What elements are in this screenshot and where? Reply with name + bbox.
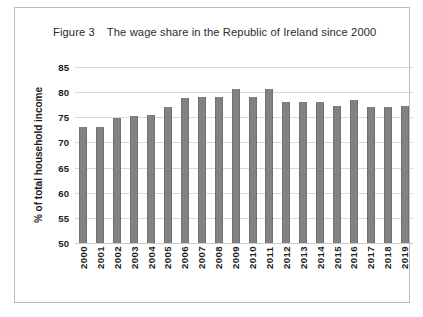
x-tick-2019: 2019 bbox=[399, 246, 410, 269]
bar-2017[interactable] bbox=[367, 107, 375, 243]
y-axis-label: % of total household income bbox=[33, 87, 44, 223]
gridline-50 bbox=[75, 243, 413, 244]
bar-slot bbox=[244, 67, 261, 243]
y-tick-50: 50 bbox=[58, 238, 69, 249]
bar-slot bbox=[160, 67, 177, 243]
x-tick-2004: 2004 bbox=[146, 246, 157, 269]
bar-slot bbox=[109, 67, 126, 243]
x-tick-slot: 2006 bbox=[176, 246, 193, 269]
x-tick-2005: 2005 bbox=[162, 246, 173, 269]
x-tick-slot: 2009 bbox=[227, 246, 244, 269]
bar-2003[interactable] bbox=[130, 116, 138, 243]
bar-2000[interactable] bbox=[79, 127, 87, 243]
x-tick-slot: 2016 bbox=[346, 246, 363, 269]
y-tick-70: 70 bbox=[58, 137, 69, 148]
bar-2007[interactable] bbox=[198, 97, 206, 243]
bar-slot bbox=[176, 67, 193, 243]
x-tick-2000: 2000 bbox=[78, 246, 89, 269]
x-tick-slot: 2019 bbox=[396, 246, 413, 269]
y-tick-60: 60 bbox=[58, 187, 69, 198]
x-tick-2014: 2014 bbox=[315, 246, 326, 269]
x-tick-slot: 2015 bbox=[329, 246, 346, 269]
y-tick-55: 55 bbox=[58, 212, 69, 223]
x-tick-2016: 2016 bbox=[348, 246, 359, 269]
x-tick-slot: 2010 bbox=[244, 246, 261, 269]
x-tick-2010: 2010 bbox=[247, 246, 258, 269]
bar-slot bbox=[396, 67, 413, 243]
bar-slot bbox=[126, 67, 143, 243]
x-tick-2017: 2017 bbox=[365, 246, 376, 269]
bar-slot bbox=[92, 67, 109, 243]
x-tick-slot: 2011 bbox=[261, 246, 278, 269]
bar-2009[interactable] bbox=[232, 89, 240, 243]
y-tick-75: 75 bbox=[58, 112, 69, 123]
bar-slot bbox=[227, 67, 244, 243]
bar-2018[interactable] bbox=[384, 107, 392, 243]
bar-2015[interactable] bbox=[333, 106, 341, 243]
caption-sliver bbox=[14, 308, 410, 315]
x-tick-2011: 2011 bbox=[264, 246, 275, 269]
bar-2014[interactable] bbox=[316, 102, 324, 243]
x-tick-slot: 2005 bbox=[160, 246, 177, 269]
bar-2004[interactable] bbox=[147, 115, 155, 243]
bar-2012[interactable] bbox=[282, 102, 290, 243]
x-tick-slot: 2003 bbox=[126, 246, 143, 269]
x-tick-slot: 2004 bbox=[143, 246, 160, 269]
x-tick-slot: 2001 bbox=[92, 246, 109, 269]
x-axis-tick-labels: 2000200120022003200420052006200720082009… bbox=[75, 246, 413, 269]
y-tick-65: 65 bbox=[58, 162, 69, 173]
x-tick-2018: 2018 bbox=[382, 246, 393, 269]
figure-frame: Figure 3The wage share in the Republic o… bbox=[14, 7, 410, 303]
bar-slot bbox=[362, 67, 379, 243]
x-tick-2015: 2015 bbox=[332, 246, 343, 269]
figure-title-text: The wage share in the Republic of Irelan… bbox=[107, 26, 377, 38]
bar-slot bbox=[346, 67, 363, 243]
bar-2006[interactable] bbox=[181, 98, 189, 243]
y-tick-80: 80 bbox=[58, 87, 69, 98]
x-tick-slot: 2018 bbox=[379, 246, 396, 269]
bar-2001[interactable] bbox=[96, 127, 104, 243]
x-tick-slot: 2000 bbox=[75, 246, 92, 269]
x-tick-slot: 2017 bbox=[362, 246, 379, 269]
x-tick-2007: 2007 bbox=[196, 246, 207, 269]
x-tick-2003: 2003 bbox=[129, 246, 140, 269]
x-tick-slot: 2002 bbox=[109, 246, 126, 269]
bar-slot bbox=[278, 67, 295, 243]
x-tick-2009: 2009 bbox=[230, 246, 241, 269]
bar-slot bbox=[295, 67, 312, 243]
x-tick-slot: 2007 bbox=[193, 246, 210, 269]
x-tick-2002: 2002 bbox=[112, 246, 123, 269]
bar-2010[interactable] bbox=[249, 97, 257, 243]
bar-slot bbox=[329, 67, 346, 243]
x-tick-2001: 2001 bbox=[95, 246, 106, 269]
bar-2019[interactable] bbox=[401, 106, 409, 243]
x-tick-slot: 2012 bbox=[278, 246, 295, 269]
bar-2011[interactable] bbox=[265, 89, 273, 243]
bar-2008[interactable] bbox=[215, 97, 223, 243]
x-tick-2006: 2006 bbox=[179, 246, 190, 269]
bar-slot bbox=[75, 67, 92, 243]
y-tick-85: 85 bbox=[58, 62, 69, 73]
x-tick-2008: 2008 bbox=[213, 246, 224, 269]
bar-slot bbox=[312, 67, 329, 243]
x-tick-slot: 2013 bbox=[295, 246, 312, 269]
bar-slot bbox=[143, 67, 160, 243]
figure-number: Figure 3 bbox=[53, 26, 95, 38]
bar-2016[interactable] bbox=[350, 100, 358, 243]
bar-slot bbox=[261, 67, 278, 243]
x-tick-slot: 2008 bbox=[210, 246, 227, 269]
bar-slot bbox=[193, 67, 210, 243]
bar-slot bbox=[210, 67, 227, 243]
figure-title: Figure 3The wage share in the Republic o… bbox=[53, 26, 376, 38]
x-tick-slot: 2014 bbox=[312, 246, 329, 269]
bar-series bbox=[75, 67, 413, 243]
bar-2005[interactable] bbox=[164, 107, 172, 243]
bar-slot bbox=[379, 67, 396, 243]
x-tick-2013: 2013 bbox=[298, 246, 309, 269]
bar-2013[interactable] bbox=[299, 102, 307, 243]
bar-2002[interactable] bbox=[113, 118, 121, 243]
x-tick-2012: 2012 bbox=[281, 246, 292, 269]
